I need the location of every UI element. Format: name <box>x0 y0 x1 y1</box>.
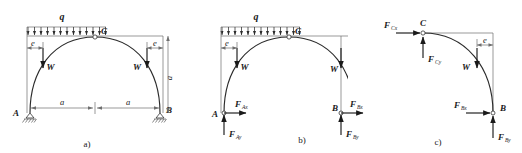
distributed-load-arrows <box>222 27 300 35</box>
weight-left-label: W <box>47 62 56 72</box>
point-label-c: C <box>101 26 108 36</box>
weight-label: W <box>462 62 471 72</box>
caption-a: a) <box>84 139 91 149</box>
dim-height-label: a <box>164 76 174 80</box>
reaction-by: F By <box>493 116 511 143</box>
dim-a-left-label: a <box>60 97 64 107</box>
support-a <box>23 113 37 123</box>
reaction-ay: F Ay <box>224 115 242 140</box>
arch-curve <box>30 37 160 113</box>
dim-e-left-label: e <box>31 38 35 48</box>
hinge-force-cy: F Cy <box>423 37 442 65</box>
reaction-ax: F Ax <box>224 99 248 113</box>
dim-e-left: e <box>221 38 237 51</box>
dim-e-left-label: e <box>225 38 229 48</box>
reaction-by-sub: By <box>505 137 511 143</box>
hinge-force-cx-sub: Cx <box>391 25 398 31</box>
distributed-load-arrows <box>28 27 106 35</box>
hinge-force-cy-sub: Cy <box>435 59 442 65</box>
dim-a-right-label: a <box>126 97 130 107</box>
panel-a: q C W e <box>0 0 174 153</box>
dim-height: a <box>164 36 174 113</box>
reaction-ax-label: F <box>234 99 241 109</box>
reaction-bx-label: F <box>453 100 460 110</box>
dim-e-right: e <box>147 38 163 51</box>
reaction-bx: F Bx <box>453 100 490 113</box>
arch-curve <box>224 37 348 113</box>
point-label-b: B <box>499 103 506 113</box>
hinge-force-cy-label: F <box>427 54 434 64</box>
caption-b: b) <box>298 135 306 145</box>
hinge-b <box>491 111 495 115</box>
load-label-q: q <box>60 11 65 22</box>
point-label-a: A <box>211 109 218 119</box>
support-b <box>153 113 167 123</box>
weight-left-label: W <box>241 62 250 72</box>
dim-e-label: e <box>483 35 487 45</box>
hinge-force-cx: F Cx <box>383 20 420 33</box>
weight-right: W <box>133 48 147 72</box>
reaction-by-label: F <box>497 132 504 142</box>
reaction-ay-label: F <box>228 129 235 139</box>
dim-e-left: e <box>27 38 43 51</box>
dim-a-left: a <box>31 97 95 114</box>
load-label-q: q <box>254 11 259 22</box>
dim-e: e <box>477 35 493 48</box>
point-label-c: C <box>420 18 427 28</box>
hinge-c <box>287 35 291 39</box>
reaction-bx-sub: Bx <box>461 105 467 111</box>
panel-c: C F Cx F Cy W <box>348 0 522 153</box>
point-label-a: A <box>12 108 19 118</box>
weight-right-label: W <box>133 62 142 72</box>
hinge-c <box>93 35 97 39</box>
reaction-ax-sub: Ax <box>241 104 248 110</box>
hinge-force-cx-label: F <box>383 20 390 30</box>
point-label-c: C <box>295 26 302 36</box>
dim-e-right-label: e <box>153 38 157 48</box>
weight-right-label: W <box>330 64 339 74</box>
panel-b: q C W e W <box>174 0 348 153</box>
reaction-ay-sub: Ay <box>235 134 242 140</box>
hinge-c <box>421 31 425 35</box>
caption-c: c) <box>435 137 442 147</box>
figure-root: q C W e <box>0 0 522 153</box>
dim-a-right: a <box>97 97 159 110</box>
